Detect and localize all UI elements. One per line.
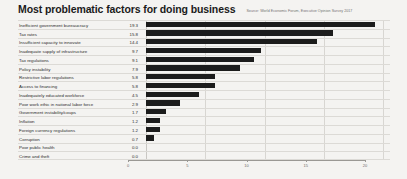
category-row: Policy instability7.9: [18, 64, 390, 73]
x-axis-tick-label: 5: [186, 163, 188, 168]
category-row: Poor public health0.0: [18, 143, 390, 152]
category-row: Corruption0.7: [18, 134, 390, 143]
category-value: 19.3: [114, 22, 138, 27]
category-value: 0.0: [114, 153, 138, 158]
category-row: Poor work ethic in national labor force2…: [18, 99, 390, 108]
category-value: 2.9: [114, 101, 138, 106]
category-row: Government instability/coups1.7: [18, 108, 390, 117]
chart-title: Most problematic factors for doing busin…: [18, 3, 235, 15]
category-value: 0.7: [114, 136, 138, 141]
category-value: 5.8: [114, 84, 138, 89]
category-value: 5.8: [114, 75, 138, 80]
category-value: 7.9: [114, 66, 138, 71]
category-label: Inadequately educated workforce: [19, 92, 84, 97]
category-label: Poor work ethic in national labor force: [19, 101, 93, 106]
category-label: Foreign currency regulations: [19, 127, 75, 132]
category-label: Poor public health: [19, 145, 55, 150]
category-row: Inadequate supply of infrastructure9.7: [18, 46, 390, 55]
x-axis: 05101520: [128, 160, 365, 174]
category-row: Tax rates15.8: [18, 29, 390, 38]
category-value: 9.7: [114, 49, 138, 54]
category-row: Inadequately educated workforce4.5: [18, 90, 390, 99]
category-row: Crime and theft0.0: [18, 151, 390, 160]
category-row: Access to financing5.8: [18, 81, 390, 90]
category-label: Insufficient capacity to innovate: [19, 40, 81, 45]
category-label: Inefficient government bureaucracy: [19, 22, 88, 27]
chart-source-note: Source: World Economic Forum, Executive …: [246, 9, 352, 13]
category-row: Inflation1.2: [18, 116, 390, 125]
category-label: Policy instability: [19, 66, 50, 71]
category-row: Foreign currency regulations1.2: [18, 125, 390, 134]
category-row: Tax regulations9.1: [18, 55, 390, 64]
category-label: Restrictive labor regulations: [19, 75, 74, 80]
category-value: 4.5: [114, 92, 138, 97]
category-label: Tax regulations: [19, 57, 49, 62]
category-row: Restrictive labor regulations5.8: [18, 73, 390, 82]
category-value: 1.2: [114, 119, 138, 124]
category-label: Crime and theft: [19, 153, 49, 158]
category-value: 1.7: [114, 110, 138, 115]
x-axis-tick-label: 20: [363, 163, 367, 168]
category-label: Government instability/coups: [19, 110, 76, 115]
category-value: 9.1: [114, 57, 138, 62]
category-value: 1.2: [114, 127, 138, 132]
category-label: Inflation: [19, 119, 35, 124]
category-label: Corruption: [19, 136, 40, 141]
category-rows: Inefficient government bureaucracy19.3Ta…: [18, 20, 390, 160]
category-value: 0.0: [114, 145, 138, 150]
category-label: Tax rates: [19, 31, 37, 36]
x-axis-tick-label: 10: [244, 163, 248, 168]
category-row: Inefficient government bureaucracy19.3: [18, 20, 390, 29]
category-label: Access to financing: [19, 84, 57, 89]
x-axis-tick-label: 15: [304, 163, 308, 168]
category-row: Insufficient capacity to innovate14.4: [18, 38, 390, 47]
category-value: 14.4: [114, 40, 138, 45]
chart-body: Inefficient government bureaucracy19.3Ta…: [18, 20, 390, 160]
x-axis-tick-label: 0: [127, 163, 129, 168]
chart-header: Most problematic factors for doing busin…: [18, 3, 398, 19]
category-label: Inadequate supply of infrastructure: [19, 49, 87, 54]
category-value: 15.8: [114, 31, 138, 36]
chart-figure: Most problematic factors for doing busin…: [0, 0, 407, 179]
